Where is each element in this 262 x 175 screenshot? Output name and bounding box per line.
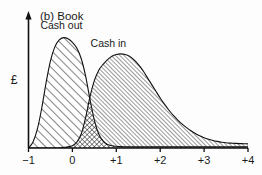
- x-axis-tick-labels: −10+1+2+3+4: [22, 154, 254, 166]
- series-label-cash-in: Cash in: [91, 37, 127, 49]
- y-axis-arrow-icon: [25, 11, 31, 20]
- y-axis-label: £: [11, 73, 18, 87]
- x-tick-label: +4: [242, 154, 255, 166]
- x-tick-label: +1: [110, 154, 123, 166]
- figure-book-cashflow: −10+1+2+3+4 £ (b) Book Cash out Cash in: [0, 0, 262, 175]
- x-tick-label: +3: [198, 154, 211, 166]
- cashflow-chart: −10+1+2+3+4 £ (b) Book Cash out Cash in: [0, 0, 262, 175]
- x-tick-label: 0: [69, 154, 75, 166]
- plot-area: [29, 38, 249, 148]
- series-label-cash-out: Cash out: [40, 19, 82, 31]
- x-tick-label: +2: [154, 154, 167, 166]
- x-tick-label: −1: [22, 154, 35, 166]
